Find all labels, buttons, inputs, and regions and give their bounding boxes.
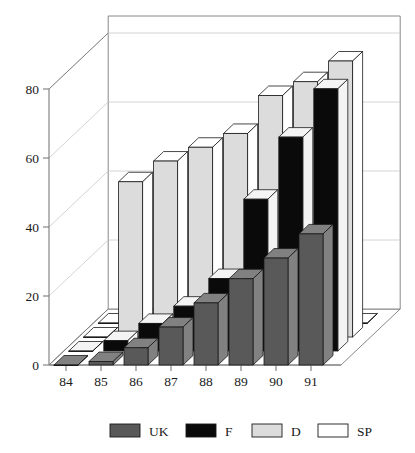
bar-front-face: [119, 182, 143, 337]
legend-item-f[interactable]: F: [186, 424, 233, 439]
x-tick-label: 88: [199, 374, 213, 389]
bar-side-face: [253, 269, 263, 365]
legend-swatch: [252, 424, 282, 437]
gridline-depth: [49, 102, 108, 158]
y-tick-label: 40: [26, 220, 40, 235]
bar-front-face: [194, 303, 218, 365]
y-tick-label: 0: [32, 358, 39, 373]
y-axis-top-diagonal: [49, 33, 108, 89]
legend-swatch: [110, 424, 140, 437]
x-tick-label: 85: [94, 374, 108, 389]
legend-swatch: [186, 424, 216, 437]
chart-frame: 0204060808485868788899091: [26, 16, 401, 389]
legend-label: SP: [357, 424, 372, 439]
bar-side-face: [353, 52, 363, 338]
x-tick-label: 87: [164, 374, 178, 389]
bar-front-face: [89, 362, 113, 365]
y-tick-label: 20: [26, 289, 40, 304]
legend-item-uk[interactable]: UK: [110, 424, 169, 439]
legend-item-sp[interactable]: SP: [318, 424, 372, 439]
bar-side-face: [143, 172, 153, 337]
y-tick-label: 60: [26, 151, 40, 166]
bar: [119, 172, 153, 337]
bar-side-face: [218, 293, 228, 365]
x-tick-label: 86: [129, 374, 143, 389]
bar-side-face: [323, 224, 333, 365]
legend: UKFDSP: [110, 424, 372, 439]
legend-label: F: [225, 424, 233, 439]
bar: [194, 293, 228, 365]
x-tick-label: 84: [59, 374, 73, 389]
bar: [159, 318, 193, 365]
bar-front-face: [69, 351, 93, 352]
gridline-depth: [49, 240, 108, 296]
bar: [299, 224, 333, 365]
legend-label: D: [291, 424, 301, 439]
chart-container: 0204060808485868788899091UKFDSP: [0, 0, 415, 453]
gridline-depth: [49, 171, 108, 227]
x-tick-label: 91: [304, 374, 318, 389]
bar-front-face: [84, 337, 108, 338]
x-tick-label: 90: [269, 374, 283, 389]
bar: [264, 249, 298, 365]
legend-label: UK: [149, 424, 169, 439]
bar-side-face: [338, 79, 348, 351]
bar-front-face: [299, 234, 323, 365]
bar-front-face: [124, 348, 148, 365]
legend-swatch: [318, 424, 348, 437]
bar-front-face: [229, 279, 253, 365]
bar-front-face: [264, 258, 288, 365]
x-tick-label: 89: [234, 374, 248, 389]
y-tick-label: 80: [26, 82, 40, 97]
legend-item-d[interactable]: D: [252, 424, 301, 439]
bar: [229, 269, 263, 365]
bar-side-face: [288, 249, 298, 365]
bar-front-face: [159, 327, 183, 365]
bar-chart-3d: 0204060808485868788899091UKFDSP: [0, 0, 415, 453]
bar-front-face: [54, 365, 78, 366]
